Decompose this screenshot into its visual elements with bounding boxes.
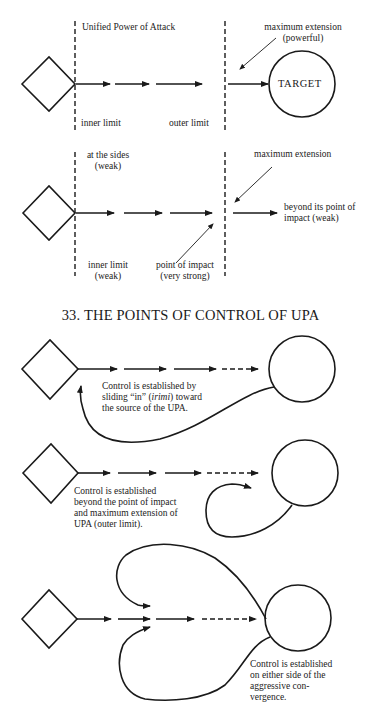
label-inner-limit-weak: inner limit (weak): [78, 260, 138, 282]
label-beyond-line2: impact (weak): [284, 213, 356, 224]
caption-line: the source of the UPA.: [102, 403, 202, 414]
label-impact-line1: point of impact: [147, 260, 223, 271]
diagram-canvas: [0, 0, 381, 721]
label-max-extension-2: maximum extension: [254, 149, 331, 160]
caption-line: Control is established: [74, 486, 178, 497]
caption-line: sliding “in” (irimi) toward: [102, 392, 202, 403]
label-inner-limit: inner limit: [81, 118, 121, 129]
caption-control-sides: Control is established on either side of…: [250, 659, 332, 703]
label-upa-header: Unified Power of Attack: [82, 22, 175, 33]
source-diamond: [23, 186, 75, 240]
caption-line: and maximum extension of: [74, 508, 178, 519]
label-inner-line2: (weak): [78, 271, 138, 282]
label-sides-line2: (weak): [78, 161, 138, 172]
control-curve: [206, 484, 292, 537]
diagram-control-beyond: [23, 440, 338, 537]
label-impact-line2: (very strong): [147, 271, 223, 282]
italic-term-irimi: irimi: [152, 392, 170, 402]
caption-line: aggressive con-: [250, 681, 332, 692]
label-beyond-line1: beyond its point of: [284, 202, 356, 213]
max-ext-pointer: [235, 167, 272, 202]
label-at-the-sides: at the sides (weak): [78, 150, 138, 172]
label-target: TARGET: [278, 78, 322, 89]
control-curve-lower: [119, 627, 270, 700]
caption-line: vergence.: [250, 692, 332, 703]
source-diamond: [22, 57, 75, 111]
caption-line: Control is established: [250, 659, 332, 670]
source-diamond: [22, 590, 77, 648]
label-point-of-impact: point of impact (very strong): [147, 260, 223, 282]
caption-line: UPA (outer limit).: [74, 519, 178, 530]
label-sides-line1: at the sides: [78, 150, 138, 161]
figure-title: 33. THE POINTS OF CONTROL OF UPA: [0, 307, 381, 324]
label-outer-limit: outer limit: [169, 118, 209, 129]
target-circle: [272, 440, 338, 506]
target-circle: [269, 336, 335, 402]
caption-line: on either side of the: [250, 670, 332, 681]
target-circle: [265, 585, 331, 651]
label-inner-line1: inner limit: [78, 260, 138, 271]
caption-control-beyond: Control is established beyond the point …: [74, 486, 178, 530]
label-beyond-impact: beyond its point of impact (weak): [284, 202, 356, 224]
caption-line: Control is established by: [102, 381, 202, 392]
diagram-upa-impact: [23, 152, 277, 276]
caption-line: beyond the point of impact: [74, 497, 178, 508]
control-curve-upper: [117, 544, 266, 619]
impact-pointer: [176, 224, 213, 263]
label-max-extension: maximum extension (powerful): [248, 22, 358, 44]
source-diamond: [23, 444, 78, 503]
source-diamond: [22, 340, 78, 399]
label-max-extension-line1: maximum extension: [248, 22, 358, 33]
label-max-extension-line2: (powerful): [248, 33, 358, 44]
caption-control-irimi: Control is established by sliding “in” (…: [102, 381, 202, 414]
